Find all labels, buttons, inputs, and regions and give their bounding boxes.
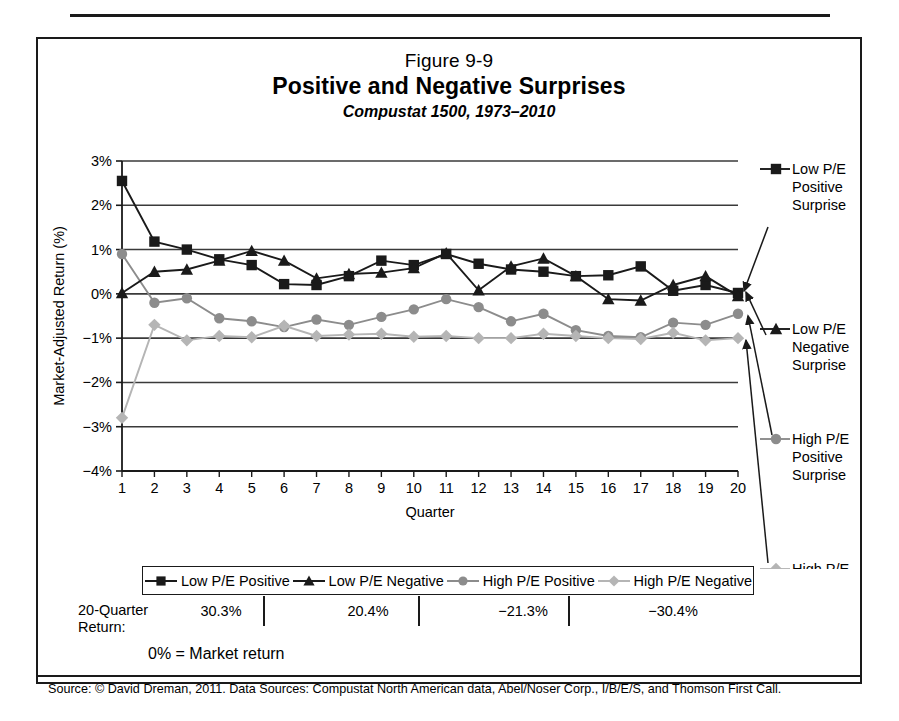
x-tick-label: 7 xyxy=(312,480,320,496)
x-tick-label: 9 xyxy=(377,480,385,496)
x-tick-label: 20 xyxy=(730,480,746,496)
callout-arrow xyxy=(748,316,772,435)
chart-legend: Low P/E PositiveLow P/E NegativeHigh P/E… xyxy=(142,566,754,595)
callout-label: Positive xyxy=(792,449,843,465)
callout-group: Low P/EPositiveSurpriseLow P/ENegativeSu… xyxy=(760,161,850,569)
legend-item-high-p-e-positive[interactable]: High P/E Positive xyxy=(446,573,595,589)
chart-plot-area: 3%2%1%0%−1%−2%−3%−4%12345678910111213141… xyxy=(38,139,860,569)
x-tick-label: 15 xyxy=(568,480,584,496)
callout-arrow xyxy=(746,292,766,335)
legend-label: High P/E Negative xyxy=(634,573,752,589)
legend-marker-circle-icon xyxy=(446,574,480,588)
x-tick-label: 2 xyxy=(150,480,158,496)
callout-label: High P/E xyxy=(792,561,850,569)
y-tick-label: 3% xyxy=(91,153,112,169)
legend-item-low-p-e-positive[interactable]: Low P/E Positive xyxy=(144,573,290,589)
figure-number: Figure 9-9 xyxy=(38,50,860,72)
figure-title-block: Figure 9-9 Positive and Negative Surpris… xyxy=(38,39,860,121)
legend-marker-diamond-icon xyxy=(597,574,631,588)
x-tick-label: 4 xyxy=(215,480,223,496)
x-tick-label: 8 xyxy=(345,480,353,496)
legend-label: High P/E Positive xyxy=(483,573,595,589)
x-tick-label: 19 xyxy=(698,480,714,496)
twenty-quarter-return-value: −30.4% xyxy=(598,603,748,619)
callout-label: Surprise xyxy=(792,357,846,373)
twenty-quarter-return-value: −21.3% xyxy=(448,603,598,619)
source-note: Source: © David Dreman, 2011. Data Sourc… xyxy=(48,682,781,696)
return-label-line2: Return: xyxy=(78,619,173,636)
x-tick-label: 11 xyxy=(439,480,454,496)
callout-arrow xyxy=(744,227,768,291)
y-tick-label: −1% xyxy=(83,330,113,346)
callout-label: Surprise xyxy=(792,467,846,483)
legend-label: Low P/E Negative xyxy=(329,573,444,589)
callout-arrow xyxy=(746,340,768,563)
x-tick-label: 3 xyxy=(183,480,191,496)
x-tick-label: 18 xyxy=(665,480,681,496)
y-tick-label: 1% xyxy=(91,242,112,258)
y-tick-label: 2% xyxy=(91,197,112,213)
legend-label: Low P/E Positive xyxy=(181,573,290,589)
x-tick-label: 1 xyxy=(118,480,126,496)
y-axis-label: Market-Adjusted Return (%) xyxy=(51,226,67,406)
series-high-p-e-negative xyxy=(116,319,744,424)
y-tick-label: −4% xyxy=(83,463,113,479)
x-tick-label: 12 xyxy=(471,480,487,496)
return-column-divider xyxy=(568,596,570,626)
x-axis-label: Quarter xyxy=(405,504,454,520)
legend-item-high-p-e-negative[interactable]: High P/E Negative xyxy=(597,573,752,589)
callout-label: Low P/E xyxy=(792,321,846,337)
callout-label: Low P/E xyxy=(792,161,846,177)
callout-label: Surprise xyxy=(792,197,846,213)
market-return-note: 0% = Market return xyxy=(148,645,285,663)
x-tick-label: 14 xyxy=(535,480,551,496)
x-tick-label: 10 xyxy=(406,480,422,496)
return-column-divider xyxy=(418,596,420,626)
x-tick-label: 5 xyxy=(248,480,256,496)
x-tick-label: 6 xyxy=(280,480,288,496)
series-low-p-e-negative xyxy=(116,245,744,306)
source-divider xyxy=(38,675,860,677)
callout-label: Positive xyxy=(792,179,843,195)
x-tick-label: 17 xyxy=(633,480,649,496)
figure-title: Positive and Negative Surprises xyxy=(38,73,860,100)
figure-subtitle: Compustat 1500, 1973–2010 xyxy=(38,103,860,121)
legend-item-low-p-e-negative[interactable]: Low P/E Negative xyxy=(292,573,444,589)
line-chart: 3%2%1%0%−1%−2%−3%−4%12345678910111213141… xyxy=(38,139,860,569)
twenty-quarter-return-row: 20-Quarter Return: 30.3%20.4%−21.3%−30.4… xyxy=(78,600,818,642)
y-tick-label: −3% xyxy=(83,419,113,435)
twenty-quarter-return-value: 20.4% xyxy=(293,603,443,619)
legend-marker-square-icon xyxy=(144,574,178,588)
x-tick-label: 13 xyxy=(503,480,519,496)
page-top-rule xyxy=(70,14,830,17)
legend-marker-triangle-icon xyxy=(292,574,326,588)
x-tick-label: 16 xyxy=(600,480,616,496)
y-tick-label: −2% xyxy=(83,374,113,390)
callout-label: Negative xyxy=(792,339,849,355)
return-column-divider xyxy=(263,596,265,626)
twenty-quarter-return-value: 30.3% xyxy=(146,603,296,619)
callout-label: High P/E xyxy=(792,431,850,447)
y-tick-label: 0% xyxy=(91,286,112,302)
figure-container: Figure 9-9 Positive and Negative Surpris… xyxy=(36,37,862,684)
series-low-p-e-positive xyxy=(117,176,743,298)
